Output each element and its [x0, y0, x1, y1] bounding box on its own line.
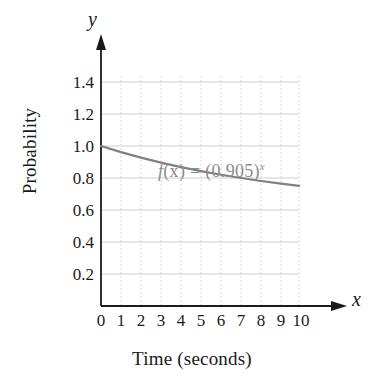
x-tick-labels: 0 1 2 3 4 5 6 7 8 9 10: [0, 312, 384, 336]
y-tick-1-0: 1.0: [52, 138, 94, 155]
exponential-decay-chart: 1.4 1.2 1.0 0.8 0.6 0.4 0.2 0 1 2 3 4 5 …: [0, 0, 384, 390]
vertical-gridlines: [121, 76, 299, 306]
fn-argument: (x): [163, 161, 185, 181]
y-tick-1-2: 1.2: [52, 106, 94, 123]
fn-equals: =: [185, 161, 205, 181]
x-tick-10: 10: [288, 312, 314, 329]
fn-base: 0.905: [212, 161, 254, 181]
fn-exponent: x: [260, 160, 265, 172]
x-axis-title: Time (seconds): [0, 348, 384, 370]
y-tick-0-8: 0.8: [52, 170, 94, 187]
x-axis-name: x: [352, 288, 361, 311]
y-tick-0-4: 0.4: [52, 234, 94, 251]
function-annotation: f(x) = (0.905)x: [158, 160, 265, 182]
y-tick-0-6: 0.6: [52, 202, 94, 219]
y-tick-1-4: 1.4: [52, 74, 94, 91]
y-tick-0-2: 0.2: [52, 266, 94, 283]
y-axis: [96, 34, 106, 306]
y-axis-title: Probability: [19, 91, 41, 211]
x-axis: [101, 301, 347, 311]
y-axis-name: y: [88, 8, 97, 31]
